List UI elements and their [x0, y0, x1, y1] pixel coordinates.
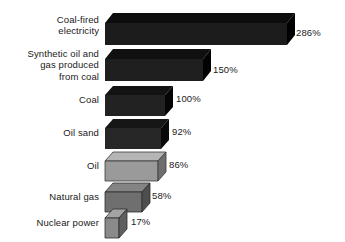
- bar-coal: [105, 86, 175, 118]
- chart-bar-row: Nuclear power 17%: [0, 206, 345, 240]
- bar-oil-sand: [105, 119, 171, 151]
- bar-shape: [105, 209, 129, 240]
- chart-bar-row: Oil 86%: [0, 150, 345, 185]
- bar-chart: Coal-fired electricity 286% Synthetic oi…: [0, 0, 345, 242]
- value-label: 58%: [152, 190, 171, 201]
- bar-shape: [105, 49, 213, 83]
- bar-shape: [105, 86, 175, 118]
- value-label: 286%: [296, 27, 321, 38]
- bar-shape: [105, 13, 297, 47]
- category-label: Coal-fired electricity: [57, 14, 99, 37]
- category-label: Oil sand: [63, 127, 99, 138]
- bar-oil: [105, 152, 168, 183]
- category-label: Nuclear power: [36, 217, 99, 228]
- chart-bar-row: Synthetic oil and gas produced from coal…: [0, 47, 345, 85]
- bar-synthetic-oil-and-gas: [105, 49, 213, 83]
- bar-coal-fired-electricity: [105, 13, 297, 47]
- chart-bar-row: Coal 100%: [0, 84, 345, 120]
- category-label: Coal: [79, 94, 99, 105]
- value-label: 150%: [213, 64, 238, 75]
- bar-nuclear-power: [105, 209, 129, 240]
- category-label: Synthetic oil and gas produced from coal: [28, 48, 99, 82]
- value-label: 86%: [169, 159, 188, 170]
- value-label: 92%: [172, 126, 191, 137]
- chart-bar-row: Oil sand 92%: [0, 117, 345, 153]
- chart-bar-row: Coal-fired electricity 286%: [0, 10, 345, 48]
- value-label: 17%: [131, 216, 150, 227]
- category-label: Oil: [87, 160, 99, 171]
- bar-shape: [105, 119, 171, 151]
- value-label: 100%: [176, 93, 201, 104]
- bar-shape: [105, 152, 168, 183]
- category-label: Natural gas: [49, 191, 99, 202]
